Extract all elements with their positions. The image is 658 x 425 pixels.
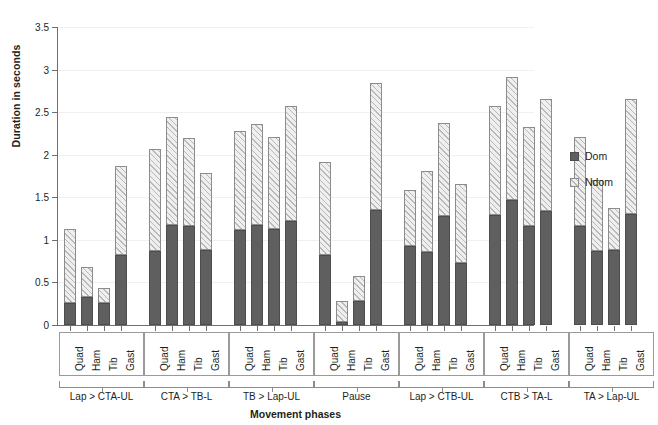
- group-bracket: [484, 381, 569, 388]
- bar-segment-dom: [455, 263, 467, 325]
- x-tick-mark: [257, 326, 258, 331]
- bar-segment-ndom: [64, 229, 76, 303]
- x-tick-mark: [427, 326, 428, 331]
- bar-segment-dom: [404, 246, 416, 325]
- y-tick-mark: [52, 282, 57, 283]
- x-tick-mark: [274, 326, 275, 331]
- group-bracket: [399, 381, 484, 388]
- legend: DomNdom: [570, 150, 613, 202]
- group-label: TA > Lap-UL: [549, 391, 658, 402]
- y-tick-mark: [52, 27, 57, 28]
- bar-segment-dom: [64, 303, 76, 325]
- x-tick-mark: [359, 326, 360, 331]
- y-tick-label: 2: [43, 149, 49, 160]
- x-tick-mark: [206, 326, 207, 331]
- bar-segment-dom: [251, 225, 263, 325]
- y-axis-title: Duration in seconds: [10, 16, 22, 176]
- x-tick-mark: [580, 326, 581, 331]
- bar-lap-ctb-ul-tib: [438, 123, 450, 325]
- bar-segment-ndom: [285, 106, 297, 221]
- group-bracket: [229, 381, 314, 388]
- bar-segment-ndom: [336, 301, 348, 321]
- bar-tb-lap-ul-tib: [268, 137, 280, 325]
- bar-segment-dom: [115, 255, 127, 325]
- x-axis-title: Movement phases: [57, 408, 534, 420]
- bar-ctb-ta-l-quad: [489, 106, 501, 325]
- bar-segment-dom: [489, 215, 501, 325]
- y-tick-mark: [52, 155, 57, 156]
- x-tick-mark: [614, 326, 615, 331]
- bar-segment-dom: [353, 301, 365, 325]
- bar-ta-lap-ul-gast: [625, 99, 637, 325]
- bar-segment-ndom: [404, 190, 416, 246]
- group-bracket: [144, 381, 229, 388]
- bar-pause-quad: [319, 162, 331, 325]
- bar-tb-lap-ul-gast: [285, 106, 297, 325]
- bar-cta-tb-l-gast: [200, 173, 212, 325]
- bar-segment-ndom: [506, 77, 518, 200]
- bar-segment-dom: [268, 229, 280, 325]
- y-tick-label: 0: [43, 320, 49, 331]
- bar-lap-cta-ul-tib: [98, 288, 110, 325]
- category-label-box: [229, 332, 314, 376]
- bar-segment-dom: [625, 214, 637, 325]
- bar-lap-cta-ul-gast: [115, 166, 127, 325]
- bar-pause-ham: [336, 301, 348, 325]
- bar-segment-ndom: [268, 137, 280, 229]
- bar-ctb-ta-l-gast: [540, 99, 552, 325]
- bar-segment-dom: [523, 226, 535, 325]
- y-axis-line: [57, 27, 58, 326]
- bar-pause-gast: [370, 83, 382, 325]
- x-tick-mark: [461, 326, 462, 331]
- bar-segment-dom: [234, 230, 246, 325]
- bar-ctb-ta-l-ham: [506, 77, 518, 325]
- x-tick-mark: [631, 326, 632, 331]
- bar-lap-ctb-ul-quad: [404, 190, 416, 325]
- bar-segment-dom: [336, 322, 348, 325]
- bar-cta-tb-l-ham: [166, 117, 178, 325]
- x-tick-mark: [240, 326, 241, 331]
- category-label-box: [569, 332, 654, 376]
- bar-ctb-ta-l-tib: [523, 127, 535, 325]
- bar-segment-ndom: [98, 288, 110, 303]
- bar-segment-dom: [149, 251, 161, 325]
- bar-tb-lap-ul-ham: [251, 124, 263, 325]
- x-tick-mark: [189, 326, 190, 331]
- x-tick-mark: [172, 326, 173, 331]
- bar-segment-dom: [591, 251, 603, 325]
- y-tick-label: 1: [43, 234, 49, 245]
- bar-segment-ndom: [540, 99, 552, 211]
- x-tick-mark: [512, 326, 513, 331]
- legend-swatch-ndom-icon: [570, 178, 579, 187]
- x-tick-mark: [495, 326, 496, 331]
- bar-segment-ndom: [523, 127, 535, 226]
- legend-swatch-dom-icon: [570, 152, 579, 161]
- bar-segment-dom: [370, 210, 382, 325]
- bar-segment-ndom: [81, 267, 93, 297]
- bar-segment-ndom: [251, 124, 263, 225]
- bar-lap-cta-ul-quad: [64, 229, 76, 325]
- bar-segment-ndom: [370, 83, 382, 210]
- legend-item-dom: Dom: [570, 150, 613, 162]
- x-axis-line: [57, 325, 534, 326]
- bar-segment-dom: [183, 226, 195, 325]
- plot-area: 00.511.522.533.5: [57, 27, 533, 326]
- x-tick-mark: [155, 326, 156, 331]
- y-tick-mark: [52, 70, 57, 71]
- category-label-box: [314, 332, 399, 376]
- x-tick-mark: [342, 326, 343, 331]
- x-tick-mark: [325, 326, 326, 331]
- bar-segment-ndom: [149, 149, 161, 251]
- y-tick-label: 0.5: [35, 277, 49, 288]
- x-tick-mark: [546, 326, 547, 331]
- bar-segment-dom: [285, 221, 297, 325]
- bar-cta-tb-l-quad: [149, 149, 161, 325]
- bar-segment-dom: [166, 225, 178, 325]
- bar-segment-ndom: [234, 131, 246, 230]
- bar-segment-dom: [438, 216, 450, 325]
- x-tick-mark: [121, 326, 122, 331]
- bar-segment-ndom: [200, 173, 212, 250]
- y-tick-mark: [52, 325, 57, 326]
- gridline: [58, 27, 534, 28]
